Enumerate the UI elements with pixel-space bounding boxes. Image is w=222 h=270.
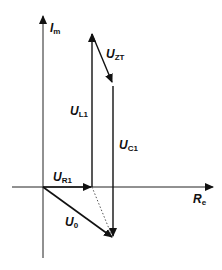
label-ur1: UR1 [53, 171, 72, 185]
label-ul1: UL1 [70, 105, 88, 119]
label-u0: U0 [65, 216, 78, 230]
label-uc1: UC1 [119, 139, 138, 153]
label-im: Im [50, 22, 60, 36]
dotted-construction-line [92, 187, 112, 236]
label-re: Re [193, 193, 206, 207]
label-uzt: UZT [106, 48, 124, 62]
phasor-diagram [0, 0, 222, 270]
